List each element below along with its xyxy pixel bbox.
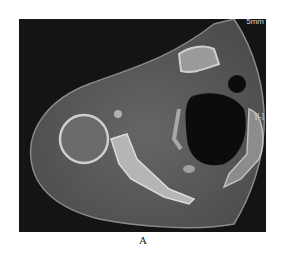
ct-scan-image: 5mm [L] — [19, 19, 266, 232]
ct-axial-shoulder — [19, 19, 266, 232]
trachea-air — [228, 75, 246, 93]
slice-thickness-label: 5mm — [246, 19, 264, 26]
rib-cross-section — [183, 165, 195, 173]
panel-label: A — [0, 234, 286, 246]
side-marker-label: [L] — [255, 111, 264, 120]
coracoid — [114, 110, 122, 118]
humeral-head — [60, 115, 108, 163]
